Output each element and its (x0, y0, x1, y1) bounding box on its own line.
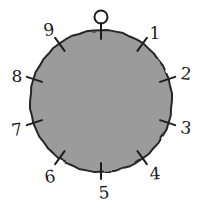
dial-tick-label-2: 2 (180, 65, 193, 83)
zero-marker-icon (95, 11, 108, 24)
dial-disc (30, 30, 172, 172)
dial-figure: 0123456789 (0, 0, 202, 210)
dial-tick-label-4: 4 (149, 165, 161, 183)
dial-canvas (0, 0, 202, 210)
dial-tick-label-3: 3 (180, 119, 193, 137)
dial-tick-label-1: 1 (150, 25, 161, 42)
dial-tick-label-5: 5 (98, 184, 110, 202)
dial-disc-shape (30, 30, 172, 172)
dial-tick-label-8: 8 (12, 68, 23, 85)
zero-marker (95, 11, 108, 24)
